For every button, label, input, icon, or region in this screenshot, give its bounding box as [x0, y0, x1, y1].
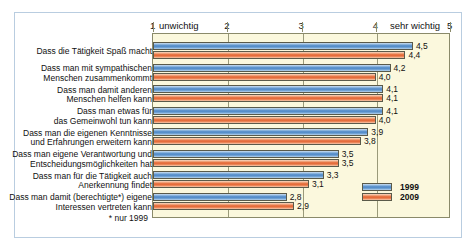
bar-group: Dass die Tätigkeit Spaß macht4,54,4 [0, 41, 476, 62]
bar-2009[interactable] [153, 137, 361, 145]
bar-value-label: 4,4 [408, 50, 420, 60]
bar-1999[interactable] [153, 42, 413, 50]
legend-item-2009[interactable]: 2009 [362, 192, 436, 203]
bar-1999[interactable] [153, 128, 368, 136]
bar-1999[interactable] [153, 150, 339, 158]
bar-value-label: 4,2 [394, 63, 406, 73]
bar-value-label: 3,8 [364, 136, 376, 146]
x-tick-mark [302, 22, 303, 32]
bar-2009[interactable] [153, 94, 383, 102]
bar-value-label: 4,1 [386, 93, 398, 103]
x-tick-mark [153, 22, 154, 32]
legend-swatch-2009 [362, 193, 392, 201]
x-tick-mark [450, 22, 451, 32]
x-tick-mark [376, 22, 377, 32]
bar-2009[interactable] [153, 116, 376, 124]
x-tick-mark [227, 22, 228, 32]
bar-2009[interactable] [153, 73, 376, 81]
bar-group: Dass man etwas für das Gemeinwohl tun ka… [0, 106, 476, 127]
bar-1999[interactable] [153, 171, 324, 179]
bar-2009[interactable] [153, 51, 405, 59]
bar-2009[interactable] [153, 159, 339, 167]
category-label: Dass man damit (berechtigte*) eigene Int… [0, 193, 152, 212]
bar-2009[interactable] [153, 180, 309, 188]
bar-value-label: 3,3 [327, 170, 339, 180]
chart-footnote: * nur 1999 [0, 213, 152, 223]
bar-value-label: 4,0 [379, 72, 391, 82]
bar-value-label: 4,0 [379, 115, 391, 125]
bar-group: Dass man die eigenen Kenntnisse und Erfa… [0, 127, 476, 148]
bar-group: Dass man eigene Verantwortung und Entsch… [0, 149, 476, 170]
bar-1999[interactable] [153, 85, 383, 93]
category-label: Dass man die eigenen Kenntnisse und Erfa… [0, 128, 152, 147]
bar-value-label: 3,1 [312, 179, 324, 189]
category-label: Dass man für die Tätigkeit auch Anerkenn… [0, 171, 152, 190]
category-label: Dass man eigene Verantwortung und Entsch… [0, 150, 152, 169]
legend-label-2009: 2009 [400, 192, 419, 202]
bar-value-label: 2,9 [297, 201, 309, 211]
category-label: Dass man mit sympathischen Menschen zusa… [0, 64, 152, 83]
bar-group: Dass man mit sympathischen Menschen zusa… [0, 63, 476, 84]
bar-value-label: 3,5 [342, 158, 354, 168]
category-label: Dass man damit anderen Menschen helfen k… [0, 85, 152, 104]
bar-2009[interactable] [153, 202, 294, 210]
category-label: Dass man etwas für das Gemeinwohl tun ka… [0, 107, 152, 126]
bar-1999[interactable] [153, 64, 391, 72]
legend-label-1999: 1999 [400, 182, 419, 192]
chart-legend: 1999 2009 [362, 182, 436, 206]
bar-1999[interactable] [153, 107, 383, 115]
bar-1999[interactable] [153, 193, 287, 201]
bar-group: Dass man damit anderen Menschen helfen k… [0, 84, 476, 105]
category-label: Dass die Tätigkeit Spaß macht [0, 47, 152, 57]
legend-swatch-1999 [362, 183, 392, 191]
